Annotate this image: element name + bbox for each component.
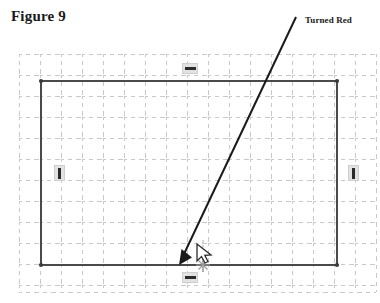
figure-root: Figure 9 Turned Red	[0, 0, 380, 303]
callout-label-turned-red: Turned Red	[305, 15, 352, 26]
horizontal-constraint-icon-bottom[interactable]	[182, 272, 198, 283]
sketch-canvas[interactable]	[0, 0, 380, 303]
horizontal-bar-glyph	[185, 67, 196, 70]
sketch-grid	[19, 54, 376, 292]
horizontal-bar-glyph	[185, 276, 196, 279]
vertical-constraint-icon-right[interactable]	[348, 165, 359, 181]
vertical-bar-glyph	[58, 168, 61, 179]
vertical-constraint-icon-left[interactable]	[54, 165, 65, 181]
vertical-bar-glyph	[352, 168, 355, 179]
page-title: Figure 9	[11, 8, 66, 25]
horizontal-constraint-icon-top[interactable]	[182, 63, 198, 74]
